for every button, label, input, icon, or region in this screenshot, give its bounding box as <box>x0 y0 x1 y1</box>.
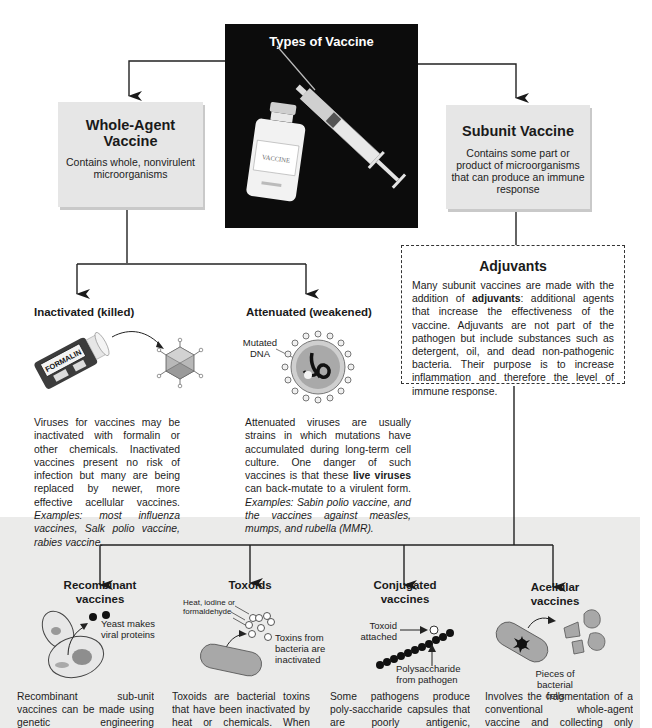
whole-agent-desc-line2: microorganisms <box>93 168 167 180</box>
conjugated-text: Some pathogens produce poly-saccharide c… <box>330 690 470 728</box>
subunit-title: Subunit Vaccine <box>446 123 590 139</box>
conjugated-title-line1: Conjugated <box>373 579 436 591</box>
recombinant-label-line2: viral proteins <box>101 629 155 640</box>
adjuvants-title: Adjuvants <box>402 258 624 274</box>
formalin-bottle-virus-illustration: FORMALIN <box>30 325 210 415</box>
inactivated-description: Viruses for vaccines may be inactivated … <box>34 417 180 508</box>
toxoids-label: Toxins from bacteria are inactivated <box>275 632 325 665</box>
subunit-description: Contains some part or product of microor… <box>446 147 590 195</box>
whole-agent-title: Whole-Agent Vaccine <box>58 117 203 149</box>
adjuvants-text: Many subunit vaccines are made with the … <box>412 279 614 398</box>
conjugated-label: Polysaccharide from pathogen <box>396 663 458 685</box>
toxoids-title: Toxoids <box>205 578 295 592</box>
subunit-vaccine-card: Subunit Vaccine Contains some part or pr… <box>446 105 590 209</box>
whole-agent-description: Contains whole, nonvirulent microorganis… <box>58 156 203 180</box>
adjuvants-text-after: : additional agents that increase the ef… <box>412 293 614 396</box>
inactivated-text: Viruses for vaccines may be inactivated … <box>34 416 180 549</box>
recombinant-text: Recombinant sub-unit vaccines can be mad… <box>17 690 154 728</box>
toxoids-label-line2: bacteria are <box>275 643 325 654</box>
whole-agent-title-line2: Vaccine <box>103 133 157 149</box>
adjuvants-box: Adjuvants Many subunit vaccines are made… <box>401 245 625 384</box>
recombinant-title-line2: vaccines <box>76 593 125 605</box>
recombinant-label-line1: Yeast makes <box>101 618 155 629</box>
inactivated-title: Inactivated (killed) <box>34 306 134 318</box>
acellular-title-line2: vaccines <box>531 595 580 607</box>
whole-agent-vaccine-card: Whole-Agent Vaccine Contains whole, nonv… <box>58 102 203 207</box>
conjugated-title: Conjugated vaccines <box>355 578 455 606</box>
conjugated-label-line2: from pathogen <box>396 674 457 685</box>
yeast-cell-illustration <box>38 605 148 685</box>
acellular-title: Acellular vaccines <box>505 580 605 608</box>
conjugated-label-line1: Polysaccharide <box>396 663 460 674</box>
acellular-text: Involves the fragmentation of a conventi… <box>485 690 633 728</box>
subunit-desc-line4: response <box>496 183 539 195</box>
whole-agent-desc-line1: Contains whole, nonvirulent <box>66 156 195 168</box>
recombinant-label: Yeast makes viral proteins <box>101 618 155 640</box>
attenuated-title: Attenuated (weakened) <box>246 306 372 318</box>
attenuated-text-after: can back-mutate to a virulent form. <box>245 483 411 494</box>
adjuvants-bold-term: adjuvants <box>472 293 521 304</box>
subunit-desc-line2: product of microorganisms <box>456 159 580 171</box>
attenuated-examples: Examples: Sabin polio vaccine, and the v… <box>245 497 411 535</box>
whole-agent-title-line1: Whole-Agent <box>86 117 175 133</box>
acellular-title-line1: Acellular <box>531 581 580 593</box>
recombinant-title-line1: Recombinant <box>64 579 137 591</box>
toxoids-label-line3: inactivated <box>275 654 320 665</box>
subunit-desc-line1: Contains some part or <box>466 147 569 159</box>
inactivated-examples: Examples: most influenza vaccines, Salk … <box>34 510 180 548</box>
recombinant-title: Recombinant vaccines <box>50 578 150 606</box>
hero-image: Types of Vaccine VACCINE <box>225 24 418 228</box>
conjugated-title-line2: vaccines <box>381 593 430 605</box>
attenuated-bold-term: live viruses <box>353 470 411 481</box>
toxoids-label-line1: Toxins from <box>275 632 324 643</box>
vaccine-vial-syringe-illustration: VACCINE <box>225 24 418 228</box>
acellular-label-line1: Pieces of <box>535 668 574 679</box>
toxoids-text: Toxoids are bacterial toxins that have b… <box>172 690 310 728</box>
attenuated-virus-illustration <box>260 325 380 415</box>
subunit-desc-line3: that can produce an immune <box>451 171 584 183</box>
attenuated-text: Attenuated viruses are usually strains i… <box>245 416 411 536</box>
